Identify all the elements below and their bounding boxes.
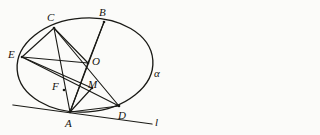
label-point-O: O <box>92 56 100 67</box>
point-O <box>87 62 90 65</box>
segments-group <box>22 22 119 112</box>
point-C <box>53 27 56 30</box>
conic-label-alpha: α <box>154 68 160 79</box>
label-point-A: A <box>65 118 72 129</box>
point-D <box>118 105 121 108</box>
segment-A-M <box>70 88 92 112</box>
point-B <box>103 21 106 24</box>
tangent-label-l: l <box>155 117 158 128</box>
label-point-B: B <box>99 7 106 18</box>
tangent-line-group <box>13 105 152 124</box>
point-E <box>21 56 24 59</box>
label-point-D: D <box>118 110 126 121</box>
tangent-line-l <box>13 105 152 124</box>
point-A <box>69 111 72 114</box>
label-point-M: M <box>88 79 97 90</box>
segment-O-A <box>70 63 88 112</box>
segment-C-A <box>54 28 70 112</box>
segment-E-D <box>22 57 119 106</box>
figure-canvas <box>0 0 171 135</box>
point-F <box>63 89 66 92</box>
label-point-E: E <box>8 49 15 60</box>
label-point-C: C <box>47 12 54 23</box>
label-point-F: F <box>52 81 59 92</box>
geometry-figure: CBEOFMAD α l <box>0 0 171 135</box>
